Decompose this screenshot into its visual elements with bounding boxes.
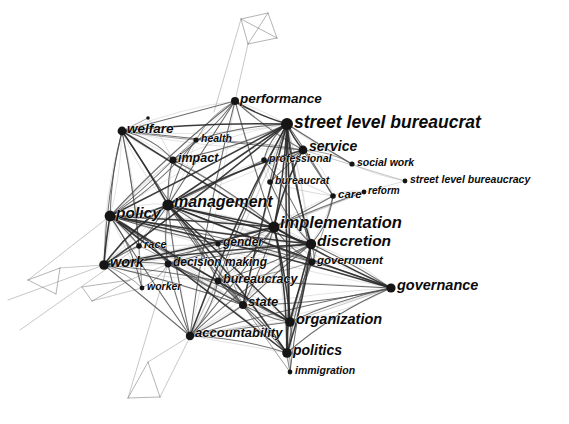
node-label-immigration: immigration	[295, 364, 355, 376]
node-label-impact: impact	[178, 151, 219, 165]
network-node-unlabeled-top-welfare[interactable]	[146, 116, 150, 120]
network-node-professional[interactable]	[261, 157, 267, 163]
network-node-care[interactable]	[330, 193, 336, 199]
node-label-welfare: welfare	[127, 121, 174, 136]
network-node-gender[interactable]	[215, 241, 220, 246]
node-label-implementation: implementation	[280, 213, 402, 231]
network-node-politics[interactable]	[282, 348, 292, 358]
network-node-organization[interactable]	[285, 317, 295, 327]
node-label-bureaucracy: bureaucracy	[223, 272, 298, 286]
node-label-policy: policy	[115, 204, 162, 221]
node-label-professional: professional	[268, 152, 333, 164]
node-label-care: care	[338, 188, 362, 200]
network-node-bureaucracy[interactable]	[215, 278, 222, 285]
network-node-government[interactable]	[309, 259, 316, 266]
canvas-background	[0, 0, 569, 424]
node-label-organization: organization	[296, 311, 382, 327]
network-node-management[interactable]	[162, 199, 173, 210]
network-node-decision-making[interactable]	[165, 261, 172, 268]
node-label-health: health	[201, 132, 232, 144]
network-node-immigration[interactable]	[288, 370, 293, 375]
network-node-governance[interactable]	[386, 283, 395, 292]
node-label-discretion: discretion	[317, 232, 391, 249]
network-node-accountability[interactable]	[186, 332, 194, 340]
network-node-performance[interactable]	[231, 97, 239, 105]
node-label-state: state	[248, 294, 278, 309]
network-node-reform[interactable]	[362, 190, 367, 195]
node-label-social-work: social work	[357, 156, 415, 168]
network-node-health[interactable]	[193, 137, 198, 142]
node-label-performance: performance	[239, 91, 322, 106]
node-label-governance: governance	[396, 277, 478, 293]
network-node-impact[interactable]	[169, 156, 176, 163]
node-label-street-level-bureaucrat: street level bureaucrat	[294, 112, 482, 132]
network-node-discretion[interactable]	[306, 239, 316, 249]
node-label-accountability: accountability	[195, 325, 283, 340]
network-node-worker[interactable]	[140, 286, 145, 291]
network-node-policy[interactable]	[105, 211, 116, 222]
network-node-street-level-bureaucracy[interactable]	[403, 179, 408, 184]
network-node-welfare[interactable]	[118, 127, 127, 136]
node-label-street-level-bureaucracy: street level bureaucracy	[410, 173, 531, 185]
node-label-gender: gender	[222, 235, 264, 249]
node-label-race: race	[144, 238, 167, 250]
network-node-social-work[interactable]	[349, 161, 354, 166]
node-label-decision-making: decision making	[173, 255, 268, 269]
network-node-bureaucrat[interactable]	[267, 179, 273, 185]
node-label-management: management	[174, 193, 273, 210]
network-node-implementation[interactable]	[268, 221, 279, 232]
network-node-street-level-bureaucrat[interactable]	[281, 118, 293, 130]
network-node-state[interactable]	[239, 301, 247, 309]
node-label-worker: worker	[147, 280, 182, 292]
node-label-work: work	[110, 254, 145, 270]
network-graph-figure: street level bureaucratimplementationman…	[0, 0, 569, 424]
network-node-work[interactable]	[99, 260, 109, 270]
node-label-bureaucrat: bureaucrat	[275, 174, 330, 186]
network-canvas: street level bureaucratimplementationman…	[0, 0, 569, 424]
network-node-race[interactable]	[136, 243, 142, 249]
node-label-reform: reform	[368, 185, 400, 196]
node-label-politics: politics	[292, 342, 342, 358]
node-label-government: government	[316, 254, 384, 266]
